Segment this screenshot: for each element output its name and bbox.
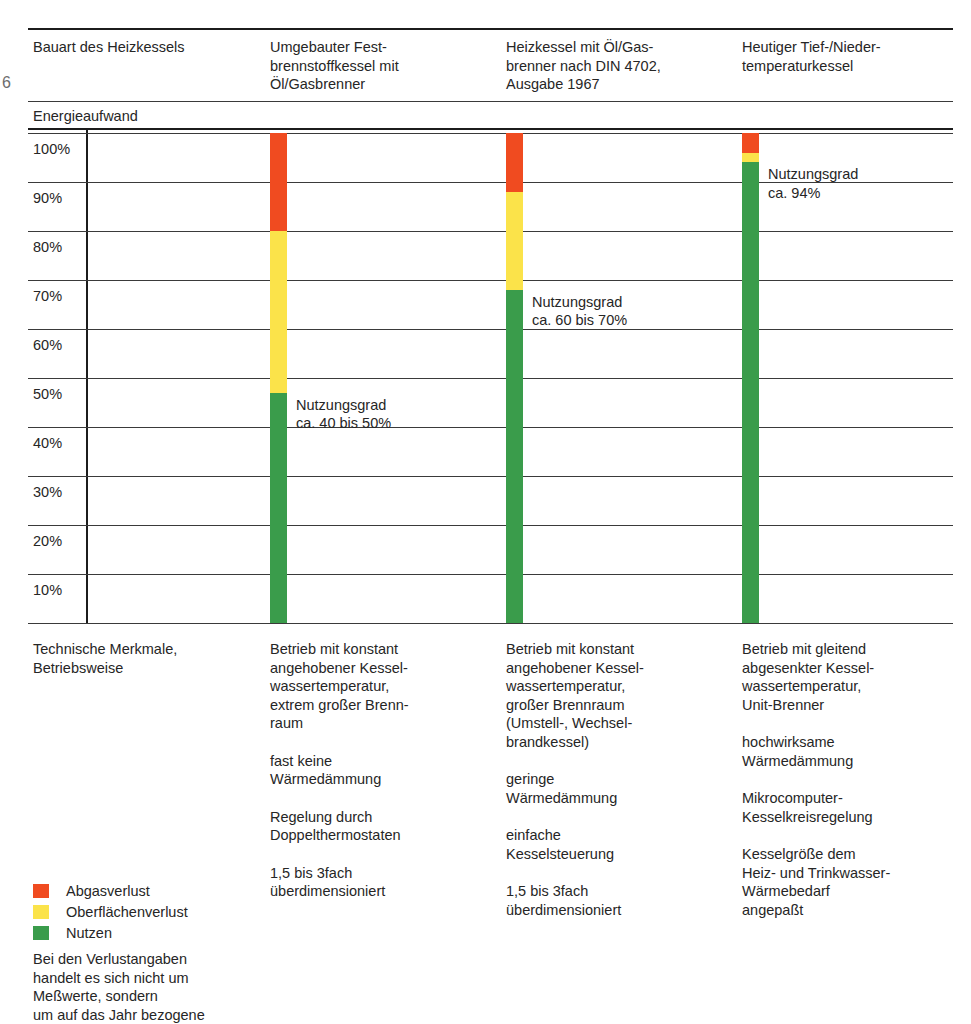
header-row-label: Bauart des Heizkessels — [33, 38, 258, 57]
bar-column — [270, 128, 287, 623]
gridline-50% — [28, 378, 953, 379]
header-column-2: Heizkessel mit Öl/Gas- brenner nach DIN … — [506, 38, 731, 94]
legend-label: Abgasverlust — [66, 882, 150, 900]
lower-text-block: 1,5 bis 3fach überdimensioniert — [270, 864, 498, 901]
lower-column-1: Betrieb mit konstant angehobener Kessel-… — [270, 640, 498, 920]
lower-row-label: Technische Merkmale, Betriebsweise — [33, 640, 258, 696]
page-edge-glyph: 6 — [2, 74, 11, 92]
gridline-100% — [28, 133, 953, 134]
lower-text-block: fast keine Wärmedämmung — [270, 752, 498, 789]
legend-swatch-icon — [33, 926, 49, 940]
legend-footnote: Bei den Verlustangaben handelt es sich n… — [33, 950, 298, 1024]
lower-column-2: Betrieb mit konstant angehobener Kessel-… — [506, 640, 734, 938]
y-tick-label: 50% — [33, 386, 62, 402]
rule-top — [28, 28, 953, 30]
lower-text-block: hochwirksame Wärmedämmung — [742, 733, 970, 770]
bar-column — [506, 128, 523, 623]
legend-item: Oberflächenverlust — [33, 901, 283, 922]
legend-swatch-icon — [33, 884, 49, 898]
lower-text-block: Kesselgröße dem Heiz- und Trinkwasser- W… — [742, 845, 970, 919]
bar-segment-nutzen — [270, 393, 287, 623]
gridline-70% — [28, 280, 953, 281]
gridline-60% — [28, 329, 953, 330]
lower-text-block: einfache Kesselsteuerung — [506, 826, 734, 863]
lower-text-block: geringe Wärmedämmung — [506, 770, 734, 807]
legend-item: Nutzen — [33, 922, 283, 943]
y-tick-label: 10% — [33, 582, 62, 598]
bar-segment-abgasverlust — [270, 133, 287, 231]
stacked-bar-chart: 100%90%80%70%60%50%40%30%20%10% Nutzungs… — [28, 128, 953, 623]
header-column-1: Umgebauter Fest- brennstoffkessel mit Öl… — [270, 38, 495, 94]
bar-segment-oberflächenverlust — [270, 231, 287, 393]
legend-swatch-icon — [33, 905, 49, 919]
y-tick-label: 20% — [33, 533, 62, 549]
y-tick-label: 100% — [33, 141, 70, 157]
bar-segment-oberflächenverlust — [742, 153, 759, 163]
gridline-80% — [28, 231, 953, 232]
bar-segment-oberflächenverlust — [506, 192, 523, 290]
bar-segment-nutzen — [506, 290, 523, 623]
lower-text-block: Betrieb mit gleitend abgesenkter Kessel-… — [742, 640, 970, 714]
lower-text-block: Mikrocomputer- Kesselkreisregelung — [742, 789, 970, 826]
header-column-3: Heutiger Tief-/Nieder- temperaturkessel — [742, 38, 967, 75]
chart-annotation: Nutzungsgrad ca. 40 bis 50% — [296, 396, 391, 433]
gridline-20% — [28, 525, 953, 526]
lower-row-label-text: Technische Merkmale, Betriebsweise — [33, 640, 258, 677]
lower-text-block: Regelung durch Doppelthermostaten — [270, 808, 498, 845]
legend-label: Nutzen — [66, 924, 112, 942]
bar-segment-nutzen — [742, 162, 759, 623]
chart-y-axis — [86, 128, 88, 623]
lower-text-block: Betrieb mit konstant angehobener Kessel-… — [270, 640, 498, 733]
rule-below-headers — [28, 101, 953, 102]
gridline-30% — [28, 476, 953, 477]
bar-segment-abgasverlust — [506, 133, 523, 192]
lower-text-block: Betrieb mit konstant angehobener Kessel-… — [506, 640, 734, 751]
section-label-energieaufwand: Energieaufwand — [33, 107, 138, 126]
y-tick-label: 90% — [33, 190, 62, 206]
lower-text-block: 1,5 bis 3fach überdimensioniert — [506, 882, 734, 919]
chart-annotation: Nutzungsgrad ca. 94% — [768, 165, 858, 202]
y-tick-label: 70% — [33, 288, 62, 304]
bar-column — [742, 128, 759, 623]
legend-item: Abgasverlust — [33, 880, 283, 901]
y-tick-label: 40% — [33, 435, 62, 451]
gridline-10% — [28, 574, 953, 575]
bar-segment-abgasverlust — [742, 133, 759, 153]
legend-label: Oberflächenverlust — [66, 903, 188, 921]
rule-chart-bottom — [28, 623, 953, 624]
lower-column-3: Betrieb mit gleitend abgesenkter Kessel-… — [742, 640, 970, 938]
y-tick-label: 60% — [33, 337, 62, 353]
y-tick-label: 80% — [33, 239, 62, 255]
gridline-40% — [28, 427, 953, 428]
chart-annotation: Nutzungsgrad ca. 60 bis 70% — [532, 293, 627, 330]
chart-legend: AbgasverlustOberflächenverlustNutzen — [33, 880, 283, 943]
y-tick-label: 30% — [33, 484, 62, 500]
